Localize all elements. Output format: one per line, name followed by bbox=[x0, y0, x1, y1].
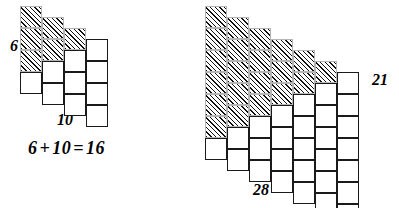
hatched-cell bbox=[205, 6, 227, 28]
white-cell bbox=[315, 105, 337, 127]
white-cell bbox=[64, 50, 86, 72]
hatched-cell bbox=[20, 6, 42, 28]
hatched-cell bbox=[205, 28, 227, 50]
white-cell bbox=[271, 171, 293, 193]
hatched-cell bbox=[20, 50, 42, 72]
white-cell bbox=[337, 160, 359, 182]
white-cell bbox=[315, 149, 337, 171]
equation-plus-sign: + bbox=[38, 138, 53, 158]
white-cell bbox=[64, 94, 86, 116]
equation-sum: 16 bbox=[86, 138, 105, 158]
white-cell bbox=[205, 138, 227, 160]
hatched-cell bbox=[271, 61, 293, 83]
hatched-cell bbox=[227, 61, 249, 83]
hatched-cell bbox=[315, 61, 337, 83]
hatched-cell bbox=[271, 83, 293, 105]
white-cell bbox=[315, 83, 337, 105]
white-cell bbox=[293, 94, 315, 116]
white-cell bbox=[293, 116, 315, 138]
right-hatched-count-label: 21 bbox=[372, 72, 388, 88]
left-hatched-count-label: 6 bbox=[10, 38, 18, 54]
white-cell bbox=[86, 61, 108, 83]
white-cell bbox=[293, 160, 315, 182]
white-cell bbox=[337, 182, 359, 204]
white-cell bbox=[227, 127, 249, 149]
hatched-cell bbox=[205, 116, 227, 138]
white-cell bbox=[315, 171, 337, 193]
hatched-cell bbox=[293, 50, 315, 72]
hatched-cell bbox=[42, 17, 64, 39]
hatched-cell bbox=[205, 94, 227, 116]
white-cell bbox=[42, 61, 64, 83]
hatched-cell bbox=[42, 39, 64, 61]
white-cell bbox=[315, 127, 337, 149]
hatched-cell bbox=[227, 83, 249, 105]
equation-equals-sign: = bbox=[71, 138, 86, 158]
white-cell bbox=[337, 116, 359, 138]
hatched-cell bbox=[293, 72, 315, 94]
equation-addend-1: 6 bbox=[28, 138, 38, 158]
figure-canvas: 6 10 6+10=16 21 28 bbox=[0, 0, 399, 208]
hatched-cell bbox=[205, 50, 227, 72]
hatched-cell bbox=[205, 72, 227, 94]
right-staircase-figure bbox=[205, 6, 363, 208]
white-cell bbox=[337, 204, 359, 208]
hatched-cell bbox=[271, 39, 293, 61]
white-cell bbox=[271, 149, 293, 171]
hatched-cell bbox=[249, 72, 271, 94]
white-cell bbox=[271, 127, 293, 149]
hatched-cell bbox=[20, 28, 42, 50]
hatched-cell bbox=[249, 50, 271, 72]
white-cell bbox=[64, 72, 86, 94]
hatched-cell bbox=[249, 28, 271, 50]
white-cell bbox=[227, 149, 249, 171]
white-cell bbox=[293, 182, 315, 204]
hatched-cell bbox=[227, 105, 249, 127]
white-cell bbox=[337, 72, 359, 94]
white-cell bbox=[86, 83, 108, 105]
hatched-cell bbox=[227, 17, 249, 39]
hatched-cell bbox=[64, 28, 86, 50]
left-staircase-figure bbox=[20, 6, 112, 131]
white-cell bbox=[337, 94, 359, 116]
right-white-count-label: 28 bbox=[253, 182, 269, 198]
white-cell bbox=[271, 105, 293, 127]
white-cell bbox=[42, 83, 64, 105]
white-cell bbox=[337, 138, 359, 160]
white-cell bbox=[86, 105, 108, 127]
white-cell bbox=[249, 160, 271, 182]
hatched-cell bbox=[249, 94, 271, 116]
white-cell bbox=[20, 72, 42, 94]
white-cell bbox=[86, 39, 108, 61]
white-cell bbox=[315, 193, 337, 208]
equation: 6+10=16 bbox=[28, 139, 105, 157]
hatched-cell bbox=[227, 39, 249, 61]
white-cell bbox=[293, 138, 315, 160]
equation-addend-2: 10 bbox=[52, 138, 71, 158]
white-cell bbox=[249, 138, 271, 160]
white-cell bbox=[249, 116, 271, 138]
